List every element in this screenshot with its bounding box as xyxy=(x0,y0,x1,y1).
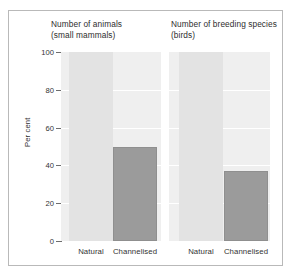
y-tick-label-0: 0 xyxy=(14,237,54,246)
plot-area: 100 80 60 40 20 0 Per cent xyxy=(9,11,282,265)
chart-figure: Number of animals (small mammals) Number… xyxy=(8,10,283,266)
bar-animals-natural[interactable] xyxy=(69,52,113,241)
y-tick-label-100: 100 xyxy=(14,48,54,57)
x-tick-label-birds-channelised: Channelised xyxy=(224,247,268,256)
x-tick-label-birds-natural: Natural xyxy=(188,247,214,256)
y-tick-label-60: 60 xyxy=(14,123,54,132)
bar-animals-channelised[interactable] xyxy=(113,147,157,242)
y-tick-label-80: 80 xyxy=(14,85,54,94)
y-tick-label-40: 40 xyxy=(14,161,54,170)
panel-animals xyxy=(61,52,161,241)
x-tick-label-animals-natural: Natural xyxy=(78,247,104,256)
bar-birds-natural[interactable] xyxy=(179,52,223,241)
y-axis-label: Per cent xyxy=(23,118,32,148)
bar-birds-channelised[interactable] xyxy=(224,171,268,241)
y-tick-label-20: 20 xyxy=(14,199,54,208)
x-tick-label-animals-channelised: Channelised xyxy=(113,247,157,256)
panel-birds xyxy=(169,52,270,241)
